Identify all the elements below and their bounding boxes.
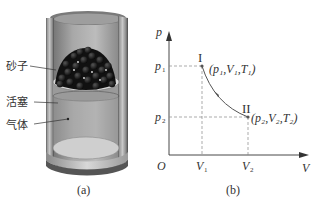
caption-b: (b) <box>226 183 240 197</box>
caption-a: (a) <box>77 183 90 197</box>
state1-label: I <box>198 50 202 65</box>
svg-text:1: 1 <box>162 66 166 74</box>
direction-arrow-icon <box>214 91 219 97</box>
p-axis-label: p <box>155 25 162 39</box>
cylinder-diagram: 砂子 活塞 气体 (a) <box>6 11 128 197</box>
cylinder-left-wall <box>46 18 54 160</box>
svg-text:2: 2 <box>162 117 166 125</box>
svg-text:1: 1 <box>204 166 208 174</box>
svg-text:p: p <box>154 59 161 73</box>
p1-tick-label: p 1 <box>154 59 166 74</box>
state2-label: II <box>242 101 251 116</box>
figure: 砂子 活塞 气体 (a) p V O p 1 p <box>0 0 311 206</box>
cylinder-bottom <box>53 137 119 159</box>
piston-label: 活塞 <box>6 95 28 109</box>
v-axis-label: V <box>302 161 311 175</box>
p2-tick-label: p 2 <box>154 110 166 125</box>
v-axis-arrow-icon <box>299 152 309 158</box>
origin-label: O <box>157 159 166 173</box>
state2-coords: (p₂,V₂,T₂) <box>251 111 298 125</box>
svg-text:p: p <box>154 110 161 124</box>
v2-tick-label: V 2 <box>242 159 254 174</box>
v1-tick-label: V 1 <box>196 159 208 174</box>
gas-label: 气体 <box>6 118 28 132</box>
p-axis-arrow-icon <box>166 31 172 41</box>
sand-label: 砂子 <box>6 60 28 73</box>
svg-text:2: 2 <box>250 166 254 174</box>
guide-lines <box>169 66 248 155</box>
state1-coords: (p₁,V₁,T₁) <box>209 62 256 76</box>
pv-graph: p V O p 1 p 2 V 1 V 2 I (p₁,V₁,T₁) II (p… <box>154 25 311 197</box>
cylinder-right-wall <box>118 16 128 162</box>
